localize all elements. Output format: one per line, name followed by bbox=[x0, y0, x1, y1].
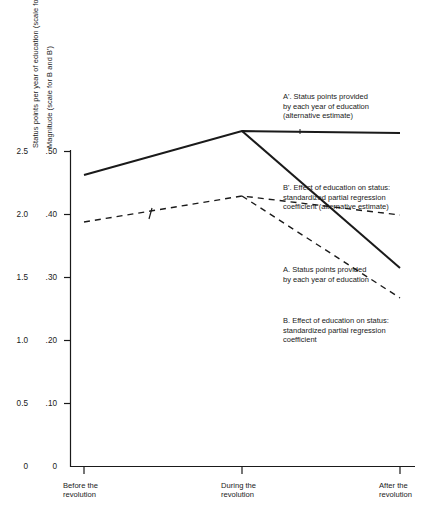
y-tick-right-010: .10 bbox=[37, 399, 57, 408]
annotation-a-line1: A. Status points provided bbox=[283, 265, 366, 275]
annotation-b-line2: standardized partial regression bbox=[283, 326, 386, 336]
y-tick-left-0-5: 0.5 bbox=[6, 399, 28, 408]
x-tick-after-line2: revolution bbox=[379, 490, 412, 500]
annotation-b-line1: B. Effect of education on status: bbox=[283, 316, 389, 326]
y-tick-left-2-0: 2.0 bbox=[6, 210, 28, 219]
series-b-prime-leader-tick bbox=[149, 208, 152, 219]
y-tick-right-0: 0 bbox=[37, 462, 57, 471]
y-tick-left-0: 0 bbox=[6, 462, 28, 471]
y-tick-right-020: .20 bbox=[37, 336, 57, 345]
y-axis-title-left: Status points per year of education (sca… bbox=[31, 0, 40, 148]
y-tick-left-2-5: 2.5 bbox=[6, 147, 28, 156]
series-line-a-prime bbox=[84, 131, 400, 175]
annotation-a-prime-line1: A'. Status points provided bbox=[283, 92, 368, 102]
chart-plot-area bbox=[0, 0, 428, 514]
y-tick-right-050: .50 bbox=[37, 147, 57, 156]
annotation-a-prime-line3: (alternative estimate) bbox=[283, 111, 353, 121]
annotation-b-prime-line1: B'. Effect of education on status: bbox=[283, 183, 390, 193]
x-tick-before-line2: revolution bbox=[63, 490, 96, 500]
chart-container: Status points per year of education (sca… bbox=[0, 0, 428, 514]
y-tick-marks bbox=[64, 152, 71, 404]
y-tick-left-1-0: 1.0 bbox=[6, 336, 28, 345]
annotation-b-prime-line2: standardized partial regression bbox=[283, 193, 386, 203]
annotation-b-prime-line3: coefficient (alternative estimate) bbox=[283, 202, 389, 212]
annotation-a-line2: by each year of education bbox=[283, 275, 369, 285]
x-tick-during-line2: revolution bbox=[221, 490, 254, 500]
y-tick-right-040: .40 bbox=[37, 210, 57, 219]
y-axis-title-right: Magnitude (scale for B and B') bbox=[45, 46, 54, 148]
annotation-a-prime-line2: by each year of education bbox=[283, 102, 369, 112]
y-tick-right-030: .30 bbox=[37, 273, 57, 282]
annotation-b-line3: coefficient bbox=[283, 335, 317, 345]
x-tick-marks bbox=[84, 467, 400, 475]
y-tick-left-1-5: 1.5 bbox=[6, 273, 28, 282]
